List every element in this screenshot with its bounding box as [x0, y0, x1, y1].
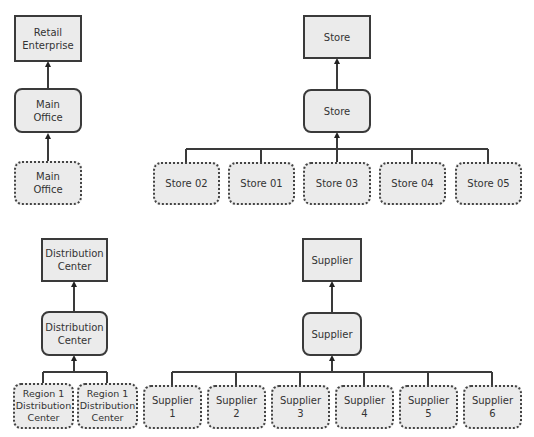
main-office-node[interactable]: Main Office	[14, 88, 82, 133]
node-label: Store	[324, 31, 350, 44]
supplier-middle-node[interactable]: Supplier	[302, 312, 362, 356]
node-label: Supplier 6	[472, 394, 513, 420]
node-label: Region 1 Distribution Center	[80, 388, 135, 424]
supplier-member-node[interactable]: Supplier 2	[207, 385, 266, 429]
retail-enterprise-node[interactable]: Retail Enterprise	[14, 15, 82, 62]
store-member-node[interactable]: Store 04	[379, 162, 446, 205]
distribution-center-middle-node[interactable]: Distribution Center	[41, 311, 108, 356]
node-label: Store 03	[316, 177, 358, 190]
supplier-top-node[interactable]: Supplier	[302, 238, 362, 282]
supplier-member-node[interactable]: Supplier 6	[463, 385, 522, 429]
node-label: Supplier 4	[344, 394, 385, 420]
node-label: Supplier 2	[216, 394, 257, 420]
store-top-node[interactable]: Store	[303, 15, 371, 59]
node-label: Store 04	[391, 177, 433, 190]
region-distribution-center-node[interactable]: Region 1 Distribution Center	[13, 383, 74, 429]
store-member-node[interactable]: Store 01	[228, 162, 295, 205]
node-label: Store 05	[467, 177, 509, 190]
store-middle-node[interactable]: Store	[303, 89, 371, 133]
main-office-member-node[interactable]: Main Office	[14, 161, 82, 205]
supplier-member-node[interactable]: Supplier 4	[335, 385, 394, 429]
node-label: Distribution Center	[45, 247, 103, 273]
store-member-node[interactable]: Store 03	[303, 162, 371, 205]
node-label: Supplier	[311, 254, 352, 267]
node-label: Main Office	[33, 170, 62, 196]
node-label: Distribution Center	[45, 321, 103, 347]
node-label: Supplier 5	[408, 394, 449, 420]
node-label: Main Office	[33, 98, 62, 124]
node-label: Supplier 1	[152, 394, 193, 420]
node-label: Store 02	[165, 177, 207, 190]
distribution-center-top-node[interactable]: Distribution Center	[41, 238, 108, 282]
node-label: Retail Enterprise	[22, 26, 73, 52]
node-label: Store	[324, 105, 350, 118]
connector-lines	[0, 0, 534, 437]
store-member-node[interactable]: Store 02	[153, 162, 220, 205]
region-distribution-center-node[interactable]: Region 1 Distribution Center	[77, 383, 138, 429]
supplier-member-node[interactable]: Supplier 3	[271, 385, 330, 429]
node-label: Region 1 Distribution Center	[16, 388, 71, 424]
supplier-member-node[interactable]: Supplier 5	[399, 385, 458, 429]
node-label: Store 01	[240, 177, 282, 190]
store-member-node[interactable]: Store 05	[455, 162, 522, 205]
node-label: Supplier	[311, 328, 352, 341]
node-label: Supplier 3	[280, 394, 321, 420]
supplier-member-node[interactable]: Supplier 1	[143, 385, 202, 429]
